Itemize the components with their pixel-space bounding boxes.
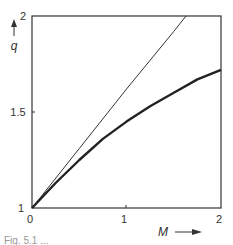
x-tick-label: 0 <box>27 213 33 225</box>
thin-series-line <box>32 16 186 208</box>
y-arrowhead-icon <box>11 19 17 27</box>
figure-caption: Fig. 5.1 ... <box>4 235 48 245</box>
x-axis-label: M <box>158 225 168 239</box>
thick-series-curve <box>32 70 221 208</box>
y-tick-label: 1.5 <box>10 106 25 118</box>
chart: 2 1.5 1 0 1 2 q M Fig. 5.1 ... <box>0 0 233 245</box>
x-tick-label: 1 <box>121 213 127 225</box>
y-tick-label: 1 <box>18 202 24 214</box>
y-tick-label: 2 <box>20 10 26 22</box>
x-tick-label: 2 <box>216 213 222 225</box>
x-arrowhead-icon <box>192 229 202 235</box>
y-axis-label: q <box>11 39 18 53</box>
